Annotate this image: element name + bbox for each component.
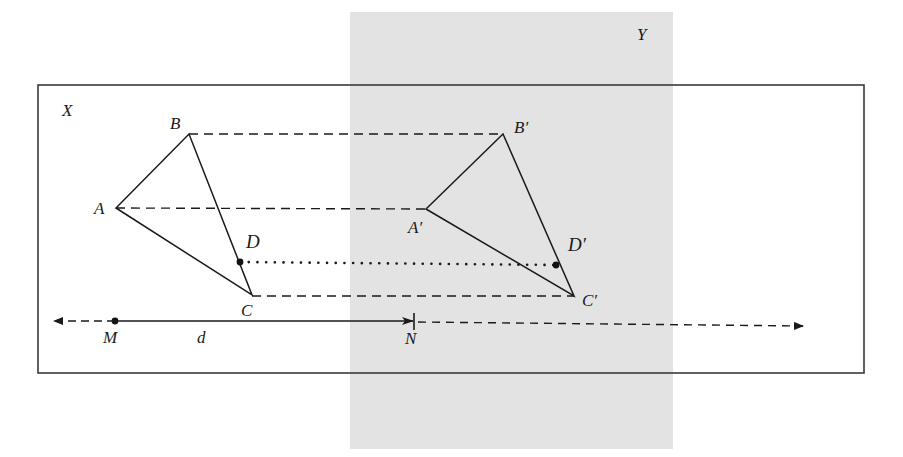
label-a-prime: A′ [407,218,422,237]
triangle-abc [116,134,252,295]
label-n: N [404,329,418,348]
label-c: C [241,301,253,320]
label-d-prime: D′ [567,234,587,255]
plane-y-label: Y [637,25,648,44]
label-b: B [170,114,181,133]
label-m: M [102,328,118,347]
label-d: D [245,231,260,252]
point-d [237,259,244,266]
label-a: A [93,199,105,218]
label-b-prime: B′ [514,118,528,137]
translation-diagram: Y X A B C D A′ B′ C′ D′ M N d [0,0,903,457]
point-d-prime [553,262,560,269]
plane-y [350,12,673,449]
label-c-prime: C′ [582,291,597,310]
label-vector-d: d [197,328,206,347]
plane-x-label: X [61,101,73,120]
